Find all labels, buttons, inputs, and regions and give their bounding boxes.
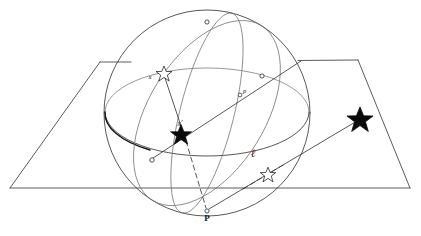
node-top (205, 20, 209, 24)
star-filled-on-plane (347, 107, 373, 131)
label-x-prime: x′ (177, 119, 183, 128)
label-x: x (147, 73, 152, 81)
node-right (260, 74, 264, 78)
star-hollow-glyph (156, 66, 172, 81)
star-filled-glyph (347, 107, 373, 131)
label-p-lower: p (242, 87, 247, 94)
secondary-meridian (156, 7, 258, 220)
secondary-meridian-ellipse (156, 7, 258, 220)
oblique-great-circle-ellipse (103, 0, 311, 231)
node-mid-ray (238, 93, 242, 97)
equator-front-arc-bold (105, 112, 150, 150)
star-hollow-on-plane (260, 167, 276, 182)
celestial-sphere-diagram: x x′ p P ℓ (0, 0, 421, 236)
sphere-outline (104, 10, 310, 216)
label-ell: ℓ (251, 147, 256, 159)
oblique-great-circle (103, 0, 311, 231)
equator-ellipse (105, 68, 309, 156)
plane-edge-top-right (298, 60, 358, 61)
node-left-equator (150, 158, 154, 162)
star-hollow-glyph (260, 167, 276, 182)
ray-center-to-upper-right (150, 61, 301, 160)
diagram-canvas: x x′ p P ℓ (0, 0, 421, 236)
equator-front-arc (105, 112, 309, 156)
label-P: P (204, 213, 210, 223)
tangent-plane (10, 60, 410, 188)
star-x-hollow-on-sphere (156, 66, 172, 81)
ray-xprime-to-P-dashed (186, 141, 206, 208)
plane-edge-left (10, 62, 100, 188)
node-markers (150, 20, 264, 213)
celestial-sphere (104, 10, 310, 216)
